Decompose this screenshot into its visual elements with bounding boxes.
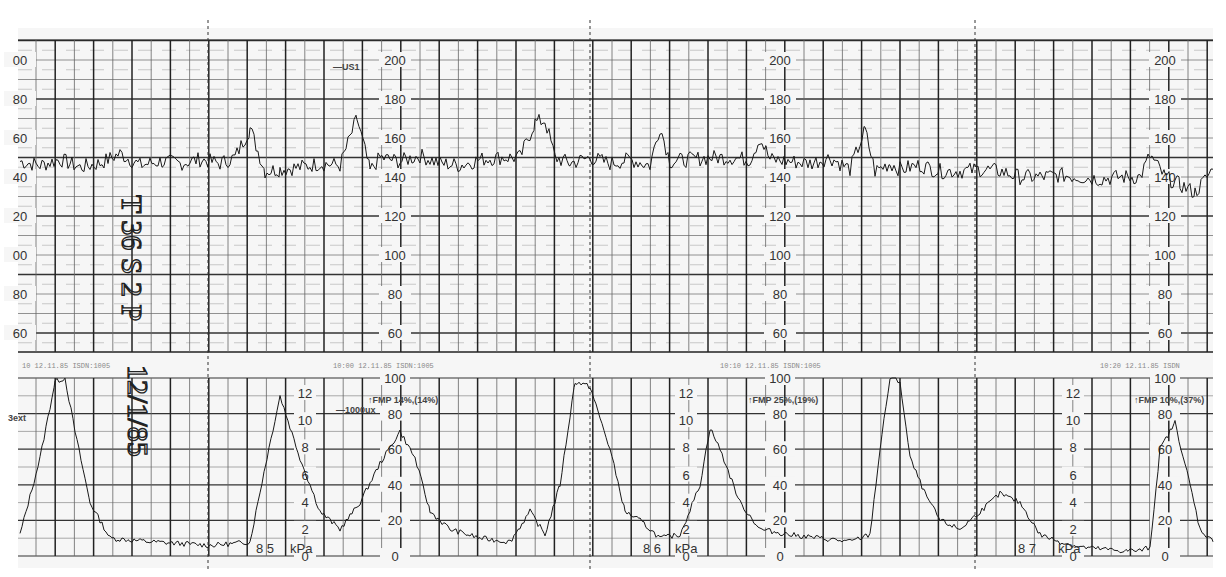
header-print-1: 10 12.11.85 ISDN:1005 [22, 362, 110, 370]
fhr-tick-label: 60 [773, 326, 787, 341]
fmp-annotation-2: ↑FMP 25%,(19%) [748, 395, 818, 405]
fhr-tick-label: 120 [384, 209, 406, 224]
fhr-tick-label: 00 [13, 53, 27, 68]
ua-pct-tick-label: 20 [1158, 513, 1172, 528]
ua-kpa-tick-label: 2 [682, 522, 689, 537]
fhr-tick-label: 20 [13, 209, 27, 224]
fhr-tick-label: 180 [1154, 92, 1176, 107]
ua-kpa-tick-label: 8 [682, 440, 689, 455]
fhr-tick-label: 60 [13, 131, 27, 146]
ua-pct-tick-label: 40 [1158, 478, 1172, 493]
fhr-tick-label: 60 [13, 326, 27, 341]
fhr-tick-label: 80 [388, 287, 402, 302]
ua-kpa-tick-label: 8 [1069, 440, 1076, 455]
ua-kpa-tick-label: 4 [301, 495, 308, 510]
ext-label: 3ext [8, 413, 26, 423]
ua-kpa-tick-label: 12 [1066, 386, 1080, 401]
fhr-tick-label: 80 [13, 92, 27, 107]
header-print-2: 10:00 12.11.85 ISDN:1005 [333, 362, 434, 370]
fhr-tick-label: 120 [769, 209, 791, 224]
ua-kpa-tick-label: 4 [682, 495, 689, 510]
ua-pct-tick-label: 0 [391, 549, 398, 564]
fhr-tick-label: 180 [384, 92, 406, 107]
fhr-tick-label: 140 [769, 170, 791, 185]
ua-pct-tick-label: 100 [769, 371, 791, 386]
ua-kpa-tick-label: 8 [301, 440, 308, 455]
ua-pct-tick-label: 80 [773, 407, 787, 422]
fhr-tick-label: 120 [1154, 209, 1176, 224]
ua-pct-tick-label: 0 [776, 549, 783, 564]
ua-pct-tick-label: 40 [773, 478, 787, 493]
fhr-tick-label: 140 [384, 170, 406, 185]
ua-pct-tick-label: 40 [388, 478, 402, 493]
fhr-tick-label: 40 [13, 170, 27, 185]
fhr-tick-label: 160 [384, 131, 406, 146]
fmp-annotation-3: ↑FMP 10%,(37%) [1134, 395, 1204, 405]
ua-kpa-tick-label: 12 [298, 386, 312, 401]
svg-text:12/1/85: 12/1/85 [122, 365, 155, 457]
kpa-unit-3: kPa [1058, 541, 1081, 556]
ua-kpa-tick-label: 6 [682, 468, 689, 483]
ua-kpa-tick-label: 10 [679, 413, 693, 428]
fhr-tick-label: 00 [13, 248, 27, 263]
fhr-tick-label: 200 [384, 53, 406, 68]
handwritten-note-2: 12/1/85 [122, 365, 155, 457]
ua-kpa-tick-label: 6 [1069, 468, 1076, 483]
ua-pct-tick-label: 100 [1154, 371, 1176, 386]
fhr-tick-label: 200 [1154, 53, 1176, 68]
ua-kpa-tick-label: 2 [1069, 522, 1076, 537]
ua-kpa-tick-label: 2 [301, 522, 308, 537]
fhr-tick-label: 100 [1154, 248, 1176, 263]
kpa-unit-1: kPa [290, 541, 313, 556]
fhr-tick-label: 100 [384, 248, 406, 263]
fhr-tick-label: 60 [388, 326, 402, 341]
lux-label: —1000ux [336, 405, 376, 415]
fhr-tick-label: 80 [773, 287, 787, 302]
ua-pct-tick-label: 20 [773, 513, 787, 528]
ua-kpa-tick-label: 12 [679, 386, 693, 401]
page-marker-86: 8 6 [643, 541, 661, 556]
ua-pct-tick-label: 60 [773, 442, 787, 457]
ua-pct-tick-label: 80 [1158, 407, 1172, 422]
kpa-unit-2: kPa [675, 541, 698, 556]
fhr-tick-label: 60 [1158, 326, 1172, 341]
ua-pct-tick-label: 100 [384, 371, 406, 386]
ua-pct-tick-label: 20 [388, 513, 402, 528]
ua-kpa-tick-label: 10 [1066, 413, 1080, 428]
header-print-3: 10:10 12.11.85 ISDN:1005 [720, 362, 821, 370]
header-print-4: 10:20 12.11.85 ISDN [1100, 362, 1180, 370]
fhr-tick-label: 200 [769, 53, 791, 68]
fhr-tick-label: 160 [1154, 131, 1176, 146]
fhr-tick-label: 80 [1158, 287, 1172, 302]
ua-pct-tick-label: 60 [388, 442, 402, 457]
us1-label: —US1 [333, 62, 360, 72]
page-marker-87: 8 7 [1018, 541, 1036, 556]
ua-pct-tick-label: 80 [388, 407, 402, 422]
svg-text:T 36 S 2 P: T 36 S 2 P [116, 195, 149, 321]
page-marker-85: 8 5 [256, 541, 274, 556]
fmp-annotation-1: ↑FMP 14%,(14%) [368, 395, 438, 405]
fhr-tick-label: 160 [769, 131, 791, 146]
fhr-tick-label: 180 [769, 92, 791, 107]
ua-kpa-tick-label: 4 [1069, 495, 1076, 510]
ua-pct-tick-label: 0 [1161, 549, 1168, 564]
fhr-tick-label: 100 [769, 248, 791, 263]
handwritten-note-1: T 36 S 2 P [116, 195, 149, 321]
ctg-strip: 0080604020008060200180160140120100806020… [0, 0, 1226, 577]
ua-kpa-tick-label: 10 [298, 413, 312, 428]
fhr-tick-label: 80 [13, 287, 27, 302]
